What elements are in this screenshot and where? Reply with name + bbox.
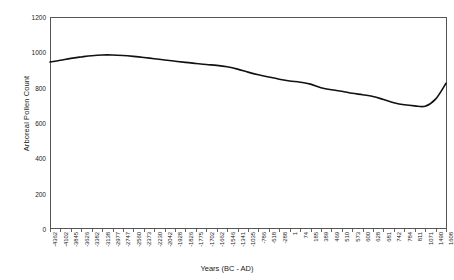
x-axis-tick-1490: 1490 — [438, 232, 444, 245]
x-axis-tick--518: -518 — [271, 232, 277, 244]
y-axis-tick-400: 400 — [35, 155, 46, 162]
x-axis-tick--2373: -2373 — [146, 232, 152, 247]
y-axis-tick-labels: 020040060080010001200 — [22, 0, 46, 280]
x-axis-tick-573: 573 — [355, 232, 361, 242]
x-axis-tick-1: 1 — [292, 232, 298, 235]
x-axis-tick--2230: -2230 — [157, 232, 163, 247]
y-axis-tick-600: 600 — [35, 120, 46, 127]
x-axis-tick-742: 742 — [396, 232, 402, 242]
x-axis-tick--2977: -2977 — [115, 232, 121, 247]
x-axis-tick-74: 74 — [303, 232, 309, 238]
x-axis-tick--2560: -2560 — [136, 232, 142, 247]
x-axis-tick-681: 681 — [386, 232, 392, 242]
x-axis-title: Years (BC - AD) — [0, 264, 454, 273]
y-axis-tick-1000: 1000 — [32, 49, 46, 56]
y-axis-tick-200: 200 — [35, 190, 46, 197]
x-axis-tick-389: 389 — [323, 232, 329, 242]
x-axis-tick-784: 784 — [407, 232, 413, 242]
y-axis-tick-800: 800 — [35, 84, 46, 91]
y-axis-tick-1200: 1200 — [32, 14, 46, 21]
line-series-arboreal-pollen-count — [50, 17, 446, 229]
x-axis-tick--1826: -1826 — [188, 232, 194, 247]
x-axis-tick--3138: -3138 — [105, 232, 111, 247]
x-axis-tick--3382: -3382 — [94, 232, 100, 247]
y-axis-tick-0: 0 — [42, 226, 46, 233]
x-axis-tick-628: 628 — [375, 232, 381, 242]
x-axis-tick--2747: -2747 — [125, 232, 131, 247]
x-axis-tick-510: 510 — [344, 232, 350, 242]
x-axis-tick--1775: -1775 — [198, 232, 204, 247]
x-axis-tick--4362: -4362 — [52, 232, 58, 247]
x-axis-tick--1341: -1341 — [240, 232, 246, 247]
x-axis-tick--1928: -1928 — [177, 232, 183, 247]
x-axis-tick--4102: -4102 — [63, 232, 69, 247]
plot-frame-right-border — [446, 17, 447, 230]
x-axis-tick-600: 600 — [365, 232, 371, 242]
x-axis-tick-811: 811 — [417, 232, 423, 241]
x-axis-tick--1662: -1662 — [219, 232, 225, 247]
x-axis-tick--1702: -1702 — [209, 232, 215, 247]
x-axis-tick-mark — [446, 229, 447, 232]
x-axis-tick--1035: -1035 — [250, 232, 256, 247]
x-axis-tick-185: 185 — [313, 232, 319, 242]
x-axis-tick--1546: -1546 — [230, 232, 236, 247]
x-axis-tick--3845: -3845 — [73, 232, 79, 247]
x-axis-tick-1071: 1071 — [428, 232, 434, 245]
chart-container: Arboreal Pollen Count 020040060080010001… — [0, 0, 454, 280]
x-axis-tick--786: -786 — [261, 232, 267, 244]
x-axis-tick-469: 469 — [334, 232, 340, 242]
x-axis-tick--288: -288 — [282, 232, 288, 244]
x-axis-tick--3626: -3626 — [84, 232, 90, 247]
x-axis-tick-1608: 1608 — [448, 232, 454, 245]
x-axis-tick-labels: -4362-4102-3845-3626-3382-3138-2977-2747… — [50, 232, 446, 264]
x-axis-tick--2042: -2042 — [167, 232, 173, 247]
